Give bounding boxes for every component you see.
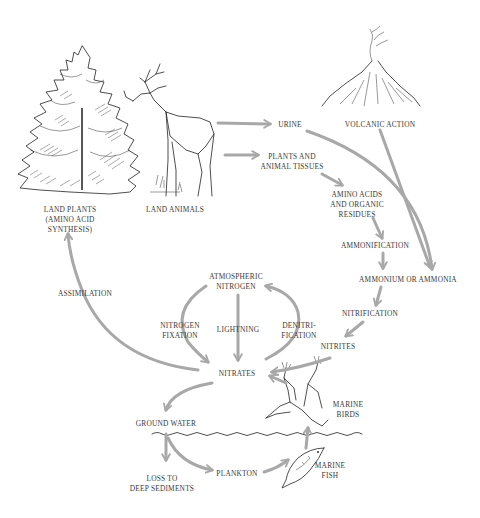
label-nitrates: NITRATES	[219, 369, 256, 379]
label-assimilation: ASSIMILATION	[58, 289, 112, 299]
label-ammonium-or-ammonia: AMMONIUM OR AMMONIA	[359, 275, 457, 285]
arrow-fish-birds	[306, 428, 308, 448]
label-nitrogen-fixation: NITROGEN FIXATION	[160, 321, 199, 341]
label-denitrification: DENITRI- FICATION	[281, 321, 316, 341]
arrow-animals-urine	[218, 123, 270, 124]
volcano-illustration	[322, 26, 420, 106]
label-marine-birds: MARINE BIRDS	[333, 400, 363, 420]
label-plankton: PLANKTON	[216, 469, 257, 479]
arrow-groundwater-plankton	[168, 438, 212, 470]
label-land-plants: LAND PLANTS (AMINO ACID SYNTHESIS)	[44, 205, 97, 235]
arrow-nitrites-nitrates	[272, 358, 330, 372]
arrow-birds-nitrates	[270, 376, 286, 383]
label-marine-fish: MARINE FISH	[315, 461, 345, 481]
arrow-plankton-fish	[264, 460, 288, 472]
label-loss-deep-sediments: LOSS TO DEEP SEDIMENTS	[130, 474, 194, 494]
label-atmospheric-nitrogen: ATMOSPHERIC NITROGEN	[209, 272, 263, 292]
label-ammonification: AMMONIFICATION	[341, 241, 409, 251]
label-lightning: LIGHTNING	[217, 325, 259, 335]
label-ground-water: GROUND WATER	[136, 419, 196, 429]
arrow-tissues-amino	[322, 174, 342, 185]
cycle-arrows	[68, 123, 432, 472]
label-volcanic-action: VOLCANIC ACTION	[345, 120, 416, 130]
label-urine: URINE	[278, 120, 302, 130]
label-land-animals: LAND ANIMALS	[146, 205, 204, 215]
label-nitrites: NITRITES	[321, 342, 355, 352]
arrow-nitrates-groundwater	[166, 383, 212, 410]
arrow-nitrification-nitrites	[346, 322, 363, 336]
tree-illustration	[18, 46, 140, 194]
arrow-amino-ammonification	[373, 218, 382, 238]
label-nitrification: NITRIFICATION	[342, 309, 398, 319]
water-surface	[152, 433, 362, 436]
nitrogen-cycle-diagram	[0, 0, 480, 518]
label-amino-acids: AMINO ACIDS AND ORGANIC RESIDUES	[330, 190, 384, 220]
deer-illustration	[124, 64, 214, 196]
arrow-ammonium-nitrification	[376, 287, 381, 305]
arrow-assimilation	[68, 234, 198, 370]
label-plants-animal-tissues: PLANTS AND ANIMAL TISSUES	[261, 152, 324, 172]
